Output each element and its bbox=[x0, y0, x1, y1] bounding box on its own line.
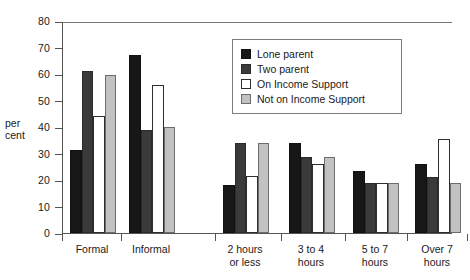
x-axis-tick bbox=[467, 234, 468, 241]
y-axis-tick bbox=[55, 181, 62, 182]
x-axis-tick bbox=[62, 234, 63, 241]
bar bbox=[450, 183, 462, 233]
x-axis-tick bbox=[215, 234, 216, 241]
x-axis-tick bbox=[407, 234, 408, 241]
x-axis-category-label-line: Over 7 bbox=[397, 243, 470, 256]
y-axis-tick-label: 20 bbox=[24, 175, 50, 186]
legend-swatch-on-income-support bbox=[241, 79, 251, 89]
y-axis-tick-label: 70 bbox=[24, 43, 50, 54]
bar bbox=[82, 71, 94, 233]
legend: Lone parentTwo parentOn Income SupportNo… bbox=[232, 39, 402, 114]
legend-item: Two parent bbox=[241, 62, 393, 76]
y-axis-tick-label: 10 bbox=[24, 202, 50, 213]
y-axis-title-line: cent bbox=[5, 129, 45, 142]
legend-item-label: Two parent bbox=[257, 64, 309, 75]
bar bbox=[129, 55, 141, 233]
y-axis-title: percent bbox=[5, 117, 45, 142]
legend-item-label: Not on Income Support bbox=[257, 94, 365, 105]
x-axis-tick bbox=[121, 234, 122, 241]
bar bbox=[438, 139, 450, 233]
bar bbox=[365, 183, 377, 233]
legend-item: On Income Support bbox=[241, 77, 393, 91]
legend-swatch-not-on-income-support bbox=[241, 94, 251, 104]
bar bbox=[105, 75, 117, 233]
y-axis-title-line: per bbox=[5, 117, 45, 130]
y-axis-tick bbox=[55, 48, 62, 49]
y-axis-tick-label: 80 bbox=[24, 16, 50, 27]
bar bbox=[235, 143, 247, 233]
bar bbox=[223, 185, 235, 233]
bar bbox=[164, 127, 176, 233]
bar bbox=[324, 157, 336, 233]
x-axis-category-label-line: hours bbox=[397, 256, 470, 269]
legend-swatch-lone-parent bbox=[241, 49, 251, 59]
y-axis-tick bbox=[55, 75, 62, 76]
y-axis-tick bbox=[55, 22, 62, 23]
bar bbox=[376, 183, 388, 233]
bar bbox=[70, 150, 82, 233]
legend-item-label: On Income Support bbox=[257, 79, 348, 90]
y-axis-tick bbox=[55, 207, 62, 208]
x-axis-category-label: Over 7hours bbox=[397, 243, 470, 268]
y-axis-tick bbox=[55, 154, 62, 155]
bar bbox=[93, 116, 105, 233]
y-axis-tick-label: 60 bbox=[24, 69, 50, 80]
legend-swatch-two-parent bbox=[241, 64, 251, 74]
bar bbox=[427, 177, 439, 233]
x-axis-tick bbox=[281, 234, 282, 241]
bar bbox=[152, 85, 164, 233]
bar-chart: 01020304050607080 percent FormalInformal… bbox=[0, 0, 470, 280]
y-axis-tick bbox=[55, 101, 62, 102]
bar bbox=[353, 171, 365, 233]
x-axis-category-label: Informal bbox=[111, 243, 191, 256]
x-axis-tick bbox=[345, 234, 346, 241]
y-axis-tick-label: 50 bbox=[24, 96, 50, 107]
bar bbox=[415, 164, 427, 233]
y-axis-tick bbox=[55, 128, 62, 129]
y-axis-tick-label: 30 bbox=[24, 149, 50, 160]
bar bbox=[388, 183, 400, 233]
y-axis-tick bbox=[55, 234, 62, 235]
bar bbox=[246, 176, 258, 233]
bar bbox=[289, 143, 301, 233]
bar bbox=[301, 157, 313, 233]
y-axis-tick-label: 0 bbox=[24, 228, 50, 239]
bar bbox=[258, 143, 270, 233]
legend-item: Not on Income Support bbox=[241, 92, 393, 106]
x-axis-category-label-line: Informal bbox=[111, 243, 191, 256]
legend-item: Lone parent bbox=[241, 47, 393, 61]
bar bbox=[141, 130, 153, 233]
bar bbox=[312, 164, 324, 233]
legend-item-label: Lone parent bbox=[257, 49, 313, 60]
